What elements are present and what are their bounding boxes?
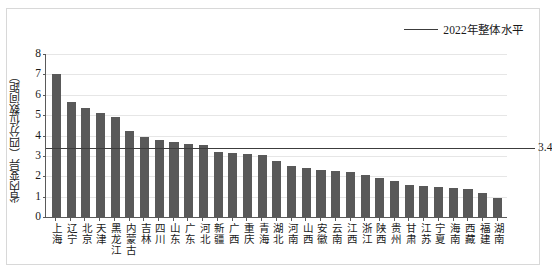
bar-slot (78, 54, 93, 217)
bar-slot (225, 54, 240, 217)
x-tick-mark (438, 217, 439, 221)
bar-slot (270, 54, 285, 217)
x-tick-mark (84, 217, 85, 221)
x-tick-slot (416, 217, 431, 221)
x-tick-slot (372, 217, 387, 221)
bar[interactable] (214, 152, 223, 217)
bar[interactable] (390, 181, 399, 217)
bar[interactable] (302, 168, 311, 217)
bar[interactable] (287, 166, 296, 217)
bar[interactable] (199, 145, 208, 217)
x-axis-label: 内蒙古 (124, 223, 135, 256)
x-tick-slot (343, 217, 358, 221)
x-label-slot: 陕西 (372, 223, 387, 256)
x-tick-mark (291, 217, 292, 221)
x-label-slot: 安徽 (313, 223, 328, 256)
x-label-slot: 上海 (48, 223, 63, 256)
legend-line-icon (404, 29, 438, 30)
bar-slot (181, 54, 196, 217)
x-tick-mark (453, 217, 454, 221)
x-tick-slot (387, 217, 402, 221)
x-label-slot: 湖南 (490, 223, 505, 256)
bar-slot (314, 54, 329, 217)
x-tick-slot (490, 217, 505, 221)
x-tick-mark (482, 217, 483, 221)
bar-slot (358, 54, 373, 217)
x-axis-label: 西藏 (463, 223, 474, 256)
x-tick-mark (187, 217, 188, 221)
bar-slot (475, 54, 490, 217)
x-tick-slot (254, 217, 269, 221)
x-tick-slot (475, 217, 490, 221)
y-tick-label: 3 (35, 150, 41, 162)
x-tick-slot (63, 217, 78, 221)
x-axis-label: 辽宁 (65, 223, 76, 256)
bar[interactable] (258, 155, 267, 217)
bar[interactable] (140, 137, 149, 217)
x-label-slot: 内蒙古 (122, 223, 137, 256)
bar[interactable] (169, 142, 178, 217)
bar[interactable] (96, 113, 105, 217)
x-axis-label: 湖北 (271, 223, 282, 256)
bar[interactable] (184, 144, 193, 217)
bar[interactable] (405, 185, 414, 217)
bar[interactable] (81, 108, 90, 217)
x-label-slot: 河南 (284, 223, 299, 256)
x-tick-mark (350, 217, 351, 221)
bar[interactable] (493, 198, 502, 217)
bar[interactable] (434, 187, 443, 217)
x-label-slot: 江西 (343, 223, 358, 256)
bar[interactable] (478, 193, 487, 217)
bar[interactable] (272, 161, 281, 217)
x-label-slot: 甘肃 (402, 223, 417, 256)
x-axis-label: 福建 (477, 223, 488, 256)
bar[interactable] (419, 186, 428, 217)
bar[interactable] (449, 188, 458, 217)
x-axis-label: 山东 (168, 223, 179, 256)
x-tick-slot (92, 217, 107, 221)
bar[interactable] (331, 171, 340, 217)
x-axis-label: 广西 (227, 223, 238, 256)
x-tick-mark (497, 217, 498, 221)
x-label-slot: 浙江 (357, 223, 372, 256)
bar-slot (49, 54, 64, 217)
x-label-slot: 宁夏 (431, 223, 446, 256)
bar[interactable] (375, 178, 384, 217)
bar[interactable] (346, 172, 355, 217)
bar-slot (387, 54, 402, 217)
x-label-slot: 四川 (151, 223, 166, 256)
y-tick-label: 5 (35, 109, 41, 121)
bar[interactable] (111, 117, 120, 217)
x-label-slot: 河北 (195, 223, 210, 256)
bar-slot (343, 54, 358, 217)
bar[interactable] (155, 140, 164, 217)
x-label-slot: 福建 (475, 223, 490, 256)
x-axis-label: 宁夏 (433, 223, 444, 256)
x-tick-mark (158, 217, 159, 221)
x-tick-mark (232, 217, 233, 221)
x-tick-slot (402, 217, 417, 221)
bar[interactable] (125, 131, 134, 217)
x-axis-label: 浙江 (359, 223, 370, 256)
bar[interactable] (52, 74, 61, 217)
x-axis-label: 北京 (79, 223, 90, 256)
reference-line-extension (507, 148, 535, 149)
x-axis-label: 江西 (345, 223, 356, 256)
x-tick-slot (446, 217, 461, 221)
bar-slot (328, 54, 343, 217)
bar[interactable] (243, 154, 252, 217)
x-tick-slot (284, 217, 299, 221)
bar[interactable] (228, 153, 237, 217)
bar[interactable] (316, 170, 325, 217)
x-tick-mark (261, 217, 262, 221)
x-label-slot: 西藏 (461, 223, 476, 256)
x-tick-mark (423, 217, 424, 221)
bar[interactable] (361, 175, 370, 217)
x-tick-slot (181, 217, 196, 221)
chart-frame: 2022年整体水平 省内变异（四分位数间距） 012345678 3.4 上海辽… (6, 8, 540, 265)
x-axis-label: 陕西 (374, 223, 385, 256)
x-tick-mark (320, 217, 321, 221)
bar[interactable] (67, 102, 76, 217)
x-tick-slot (298, 217, 313, 221)
bar[interactable] (463, 189, 472, 217)
